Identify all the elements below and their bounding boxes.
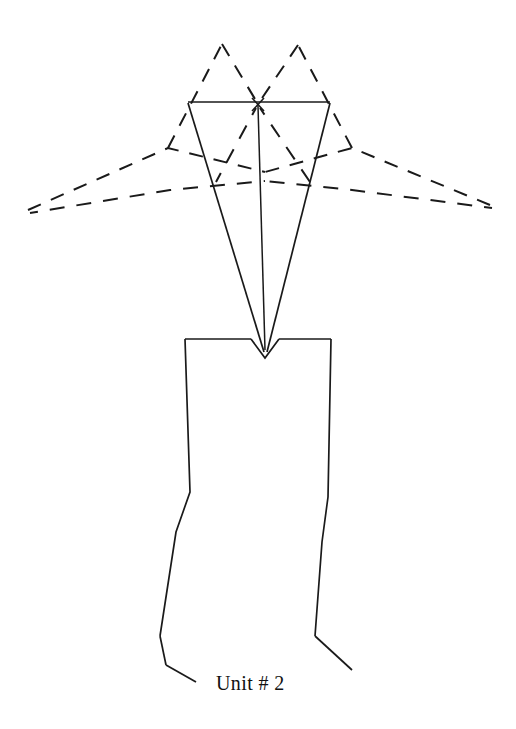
dashed-left-peak-outer: [168, 44, 222, 148]
dashed-right-peak-inner: [258, 45, 298, 104]
body-left-ankle: [166, 665, 196, 682]
body-right-foot: [315, 636, 352, 670]
unit-figure-drawing: Unit # 2: [0, 0, 516, 729]
triangle-center-axis: [258, 106, 265, 350]
diagram-canvas: Unit # 2: [0, 0, 516, 729]
body-left-contour: [160, 339, 190, 636]
dashed-outer-right-wing: [265, 148, 490, 205]
dashed-right-peak-outer: [298, 45, 352, 148]
triangle-right-edge: [267, 103, 330, 352]
solid-triangle: [188, 102, 330, 352]
dashed-lower-right-wing: [265, 181, 492, 208]
body-right-contour: [315, 339, 331, 636]
figure-caption: Unit # 2: [216, 672, 285, 694]
dashed-left-peak-inner: [222, 44, 258, 104]
dashed-lower-left-wing: [30, 181, 265, 213]
body-left-foot: [160, 636, 166, 665]
triangle-left-edge: [188, 103, 264, 352]
solid-body-outline: [160, 339, 352, 682]
dashed-inner-left-strand: [216, 108, 256, 182]
